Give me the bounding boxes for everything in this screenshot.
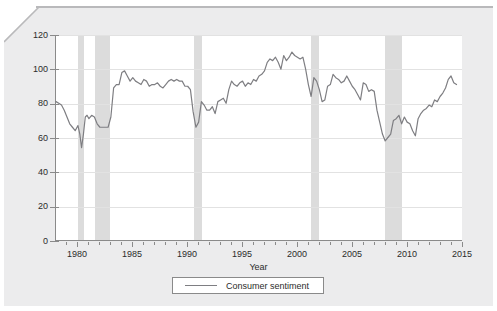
y-axis-tick-label: 100	[8, 65, 48, 74]
x-axis-tick-label: 2010	[397, 249, 417, 259]
x-axis-tick-minor	[88, 242, 89, 245]
y-axis-tick	[50, 172, 59, 173]
y-axis-tick-label: 0	[8, 237, 48, 246]
y-axis-tick	[50, 69, 59, 70]
y-axis-tick	[50, 138, 59, 139]
x-axis-title: Year	[55, 262, 462, 272]
x-axis-tick-minor	[363, 242, 364, 245]
x-axis-tick-label: 1980	[67, 249, 87, 259]
y-axis-tick-label: 80	[8, 99, 48, 108]
x-axis-tick-minor	[418, 242, 419, 245]
x-axis-tick-minor	[275, 242, 276, 245]
plot-area	[55, 35, 462, 241]
x-axis-tick-minor	[165, 242, 166, 245]
x-axis-tick-minor	[341, 242, 342, 245]
x-axis-tick-minor	[154, 242, 155, 245]
y-axis-tick	[50, 241, 59, 242]
x-axis-tick-minor	[264, 242, 265, 245]
x-axis-tick-major	[242, 242, 243, 247]
x-axis-tick-minor	[231, 242, 232, 245]
x-axis-tick-minor	[176, 242, 177, 245]
series-consumer-sentiment	[56, 35, 462, 240]
x-axis-tick-major	[187, 242, 188, 247]
x-axis-tick-minor	[429, 242, 430, 245]
x-axis-tick-minor	[209, 242, 210, 245]
x-axis-tick-minor	[440, 242, 441, 245]
x-axis-tick-minor	[374, 242, 375, 245]
x-axis-tick-minor	[308, 242, 309, 245]
legend-label: Consumer sentiment	[226, 281, 309, 291]
x-axis-tick-major	[407, 242, 408, 247]
y-axis-tick-label: 20	[8, 202, 48, 211]
x-axis-tick-minor	[286, 242, 287, 245]
figure-page: 020406080100120 198019851990199520002005…	[0, 0, 497, 311]
x-axis-tick-label: 1990	[177, 249, 197, 259]
legend-line-swatch	[185, 285, 217, 286]
x-axis-tick-minor	[99, 242, 100, 245]
x-axis-tick-minor	[319, 242, 320, 245]
y-axis-tick-label: 40	[8, 168, 48, 177]
x-axis-tick-minor	[198, 242, 199, 245]
x-axis-tick-minor	[110, 242, 111, 245]
x-axis-tick-minor	[330, 242, 331, 245]
x-axis-tick-minor	[220, 242, 221, 245]
x-axis-tick-major	[352, 242, 353, 247]
y-axis-tick	[50, 207, 59, 208]
y-axis-tick-label: 60	[8, 134, 48, 143]
y-axis-tick-label: 120	[8, 31, 48, 40]
x-axis-tick-minor	[451, 242, 452, 245]
x-axis-tick-major	[297, 242, 298, 247]
x-axis-tick-label: 2015	[452, 249, 472, 259]
y-axis-tick	[50, 104, 59, 105]
y-axis-tick	[50, 35, 59, 36]
chart-figure: 020406080100120 198019851990199520002005…	[0, 0, 497, 311]
chart-legend: Consumer sentiment	[172, 277, 324, 294]
x-axis-tick-label: 1995	[232, 249, 252, 259]
x-axis-tick-label: 1985	[122, 249, 142, 259]
x-axis-tick-major	[77, 242, 78, 247]
x-axis-tick-label: 2000	[287, 249, 307, 259]
x-axis-tick-label: 2005	[342, 249, 362, 259]
x-axis-tick-minor	[66, 242, 67, 245]
x-axis-tick-minor	[253, 242, 254, 245]
x-axis-tick-minor	[143, 242, 144, 245]
x-axis-tick-minor	[396, 242, 397, 245]
x-axis-tick-minor	[121, 242, 122, 245]
x-axis-tick-major	[132, 242, 133, 247]
x-axis-tick-major	[462, 242, 463, 247]
x-axis-tick-minor	[385, 242, 386, 245]
